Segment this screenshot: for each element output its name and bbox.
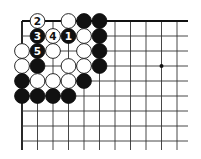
white-stone xyxy=(77,44,92,59)
stone-disc xyxy=(92,59,107,74)
black-stone xyxy=(92,29,107,44)
stone-disc xyxy=(77,14,92,29)
stone-disc xyxy=(77,44,92,59)
go-board-diagram: 23415 xyxy=(0,0,201,159)
black-stone xyxy=(77,74,92,89)
black-stone xyxy=(61,89,76,104)
stone-disc xyxy=(61,14,76,29)
stone-disc xyxy=(92,29,107,44)
stone-disc xyxy=(61,74,76,89)
white-stone-move-2: 2 xyxy=(30,14,45,29)
move-number-label: 2 xyxy=(34,15,41,27)
white-stone xyxy=(77,29,92,44)
white-stone xyxy=(61,74,76,89)
black-stone-move-5: 5 xyxy=(30,44,45,59)
stone-disc xyxy=(61,89,76,104)
stone-disc xyxy=(30,89,45,104)
stone-disc xyxy=(77,74,92,89)
stone-disc xyxy=(46,74,61,89)
white-stone xyxy=(77,59,92,74)
white-stone xyxy=(15,59,30,74)
star-point xyxy=(160,64,164,68)
white-stone xyxy=(46,74,61,89)
stone-disc xyxy=(46,44,61,59)
white-stone-move-4: 4 xyxy=(46,29,61,44)
stone-disc xyxy=(92,44,107,59)
black-stone xyxy=(15,74,30,89)
black-stone xyxy=(30,89,45,104)
move-number-label: 5 xyxy=(34,45,41,57)
black-stone xyxy=(92,59,107,74)
move-number-label: 3 xyxy=(34,30,41,42)
stones: 23415 xyxy=(15,14,107,104)
white-stone xyxy=(46,44,61,59)
black-stone xyxy=(92,44,107,59)
stone-disc xyxy=(15,44,30,59)
star-points xyxy=(160,64,164,68)
white-stone xyxy=(61,14,76,29)
stone-disc xyxy=(30,59,45,74)
black-stone xyxy=(92,14,107,29)
stone-disc xyxy=(30,74,45,89)
move-number-label: 4 xyxy=(49,30,56,42)
stone-disc xyxy=(46,89,61,104)
black-stone xyxy=(15,89,30,104)
stone-disc xyxy=(15,89,30,104)
black-stone-move-1: 1 xyxy=(61,29,76,44)
white-stone xyxy=(61,59,76,74)
black-stone xyxy=(77,14,92,29)
white-stone xyxy=(30,74,45,89)
move-number-label: 1 xyxy=(65,30,72,42)
stone-disc xyxy=(77,29,92,44)
stone-disc xyxy=(15,74,30,89)
stone-disc xyxy=(61,59,76,74)
stone-disc xyxy=(92,14,107,29)
stone-disc xyxy=(15,59,30,74)
black-stone xyxy=(30,59,45,74)
black-stone xyxy=(46,89,61,104)
white-stone xyxy=(15,44,30,59)
black-stone-move-3: 3 xyxy=(30,29,45,44)
stone-disc xyxy=(77,59,92,74)
